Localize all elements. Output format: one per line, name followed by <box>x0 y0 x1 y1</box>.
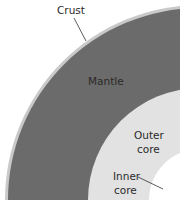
crust-leader-line <box>74 18 86 41</box>
crust-label: Crust <box>57 4 85 16</box>
mantle-label: Mantle <box>88 75 124 87</box>
inner-core-label-line1: Inner <box>113 170 141 182</box>
earth-layers-diagram: Crust Mantle Outer core Inner core <box>0 0 180 207</box>
outer-core-label-line2: core <box>137 143 160 155</box>
outer-core-label-line1: Outer <box>134 129 164 141</box>
inner-core-label-line2: core <box>114 184 137 196</box>
